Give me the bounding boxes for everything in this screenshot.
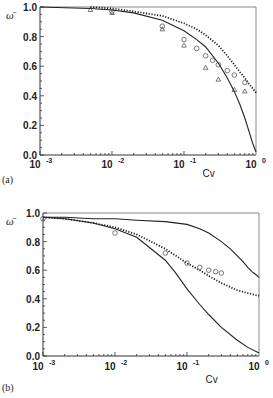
x-tick-label: 10 <box>32 361 44 372</box>
circle-marker <box>182 37 187 42</box>
x-tick-label: 10 <box>29 159 41 170</box>
triangle-marker <box>203 65 208 69</box>
panel-label: (a) <box>2 174 13 186</box>
x-tick-label: 10 <box>104 361 116 372</box>
figure: 0.00.20.40.60.81.010-310-210-1100Cvω̄(a)… <box>0 0 273 398</box>
circle-marker <box>219 271 224 276</box>
circle-marker <box>243 80 248 85</box>
y-tick-label: 0.2 <box>23 120 37 131</box>
y-tick-label: 0.4 <box>26 294 40 305</box>
y-axis-label: ω̄ <box>6 9 17 21</box>
y-tick-label: 0.2 <box>26 322 40 333</box>
triangle-marker <box>182 43 187 47</box>
y-tick-label: 1.0 <box>26 208 40 219</box>
x-tick-label: 10 <box>248 361 260 372</box>
x-tick-exponent: -3 <box>46 157 52 164</box>
circle-marker <box>232 73 237 78</box>
x-tick-exponent: -3 <box>49 359 55 366</box>
dotted-curve <box>90 7 256 93</box>
y-tick-label: 0.6 <box>26 265 40 276</box>
circle-marker <box>206 268 211 273</box>
x-tick-exponent: 0 <box>265 359 269 366</box>
chart-panel-b: 0.00.20.40.60.81.010-310-210-1100Cvω̄(b) <box>2 208 269 394</box>
circle-marker <box>163 251 168 256</box>
circle-marker <box>213 269 218 274</box>
y-tick-label: 0.6 <box>23 61 37 72</box>
circle-marker <box>197 265 202 270</box>
x-tick-label: 10 <box>245 159 257 170</box>
triangle-marker <box>243 89 248 93</box>
solid-curve <box>43 217 259 277</box>
y-tick-label: 1.0 <box>23 2 37 13</box>
x-tick-exponent: -1 <box>193 359 199 366</box>
y-tick-label: 0.8 <box>23 32 37 43</box>
y-axis-label: ω̄ <box>6 215 17 227</box>
y-tick-label: 0.4 <box>23 91 37 102</box>
x-tick-exponent: -2 <box>118 157 124 164</box>
triangle-marker <box>216 77 221 81</box>
circle-marker <box>225 68 230 73</box>
circle-marker <box>194 46 199 51</box>
x-tick-label: 10 <box>173 159 185 170</box>
circle-marker <box>210 58 215 63</box>
panel-label: (b) <box>2 382 14 394</box>
x-tick-label: 10 <box>101 159 113 170</box>
x-tick-label: 10 <box>176 361 188 372</box>
x-axis-label: Cv <box>203 168 215 179</box>
solid-curve <box>40 7 256 152</box>
chart-panel-a: 0.00.20.40.60.81.010-310-210-1100Cvω̄(a) <box>2 2 266 186</box>
y-tick-label: 0.8 <box>26 237 40 248</box>
x-axis-label: Cv <box>206 374 218 385</box>
x-tick-exponent: -2 <box>121 359 127 366</box>
dotted-curve <box>43 217 259 296</box>
x-tick-exponent: -1 <box>190 157 196 164</box>
circle-marker <box>113 231 118 236</box>
x-tick-exponent: 0 <box>262 157 266 164</box>
circle-marker <box>203 54 208 59</box>
